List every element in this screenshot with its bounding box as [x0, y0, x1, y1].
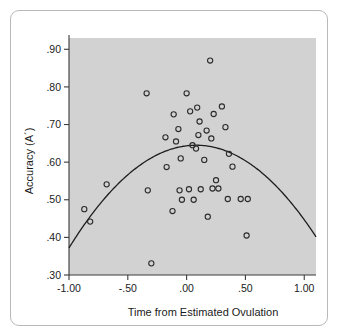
y-tick-label: .70 — [46, 118, 61, 130]
x-tick-label: .00 — [179, 282, 194, 294]
y-tick-label: .90 — [46, 43, 61, 55]
y-tick-label: .50 — [46, 193, 61, 205]
y-axis-ticks: .30.40.50.60.70.80.90 — [46, 43, 69, 281]
x-tick-label: 1.00 — [294, 282, 315, 294]
y-axis-title: Accuracy (A´) — [23, 128, 35, 195]
y-tick-label: .30 — [46, 269, 61, 281]
plot-panel-background — [69, 38, 316, 275]
y-tick-label: .60 — [46, 156, 61, 168]
x-tick-label: .50 — [238, 282, 253, 294]
x-tick-label: -.50 — [119, 282, 137, 294]
figure-card: .30.40.50.60.70.80.90 -1.00-.50.00.501.0… — [10, 10, 328, 326]
x-tick-label: -1.00 — [57, 282, 81, 294]
y-tick-label: .80 — [46, 81, 61, 93]
scatter-plot: .30.40.50.60.70.80.90 -1.00-.50.00.501.0… — [11, 11, 329, 327]
x-axis-title: Time from Estimated Ovulation — [128, 306, 279, 318]
y-tick-label: .40 — [46, 231, 61, 243]
x-axis-ticks: -1.00-.50.00.501.00 — [57, 275, 315, 294]
